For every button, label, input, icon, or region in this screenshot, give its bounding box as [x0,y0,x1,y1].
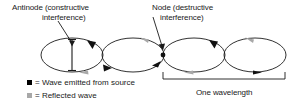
one-wavelength-bracket [163,72,285,79]
arrow-loop2-bottom-left-black [103,65,112,72]
wave-loops-svg [0,0,294,106]
standing-wave-diagram: Antinode (constructive interference) Nod… [0,0,294,106]
arrow-loop4-bottom-black [253,71,262,75]
arrow-loop2-top-gray [140,38,149,44]
wave-loop-4 [224,38,286,72]
antinode-leader-line [58,21,75,47]
arrow-loop3-top-black [209,40,218,49]
wave-loop-2 [102,38,164,72]
arrow-loop1-top-black [87,41,96,50]
node-dot [161,53,166,58]
